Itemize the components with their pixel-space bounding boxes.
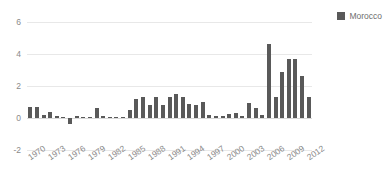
bar[interactable] <box>128 110 132 118</box>
bar[interactable] <box>240 116 244 118</box>
y-tick-label--2: -2 <box>13 145 21 155</box>
bar[interactable] <box>88 117 92 118</box>
x-axis: 1970197319761979198219851988199119941997… <box>27 150 312 185</box>
bar[interactable] <box>148 105 152 118</box>
y-tick-label-0: 0 <box>16 113 21 123</box>
y-tick-label-6: 6 <box>16 17 21 27</box>
bar[interactable] <box>121 117 125 118</box>
bar[interactable] <box>194 105 198 118</box>
bar[interactable] <box>254 108 258 118</box>
bar[interactable] <box>48 112 52 118</box>
bar[interactable] <box>114 117 118 118</box>
bar[interactable] <box>81 117 85 118</box>
bar[interactable] <box>68 118 72 124</box>
bar[interactable] <box>221 116 225 118</box>
bar[interactable] <box>287 59 291 118</box>
bar[interactable] <box>101 116 105 118</box>
bar[interactable] <box>42 115 46 118</box>
bar[interactable] <box>267 44 271 118</box>
y-tick-label-4: 4 <box>16 49 21 59</box>
bar[interactable] <box>274 97 278 118</box>
bar[interactable] <box>61 117 65 118</box>
plot-area: 6420-2 <box>27 22 312 150</box>
bar-chart: Morocco 6420-2 1970197319761979198219851… <box>0 0 388 185</box>
bar[interactable] <box>161 105 165 118</box>
bar[interactable] <box>35 107 39 118</box>
bar[interactable] <box>227 114 231 118</box>
bar[interactable] <box>214 116 218 118</box>
bar[interactable] <box>141 97 145 118</box>
bar[interactable] <box>201 102 205 118</box>
bar[interactable] <box>95 108 99 118</box>
bars-layer <box>27 22 312 150</box>
bar[interactable] <box>300 76 304 118</box>
bar[interactable] <box>108 117 112 118</box>
bar[interactable] <box>174 94 178 118</box>
bar[interactable] <box>75 116 79 118</box>
legend-label-morocco: Morocco <box>349 11 382 21</box>
bar[interactable] <box>247 103 251 118</box>
bar[interactable] <box>307 97 311 118</box>
bar[interactable] <box>207 115 211 118</box>
bar[interactable] <box>181 97 185 118</box>
bar[interactable] <box>293 59 297 118</box>
bar[interactable] <box>280 72 284 118</box>
bar[interactable] <box>168 97 172 118</box>
bar[interactable] <box>260 115 264 118</box>
bar[interactable] <box>187 104 191 118</box>
legend-swatch-morocco <box>337 12 345 20</box>
bar[interactable] <box>234 113 238 118</box>
bar[interactable] <box>55 116 59 118</box>
y-tick-label-2: 2 <box>16 81 21 91</box>
bar[interactable] <box>154 97 158 118</box>
chart-legend: Morocco <box>337 11 382 21</box>
bar[interactable] <box>134 99 138 118</box>
bar[interactable] <box>28 107 32 118</box>
